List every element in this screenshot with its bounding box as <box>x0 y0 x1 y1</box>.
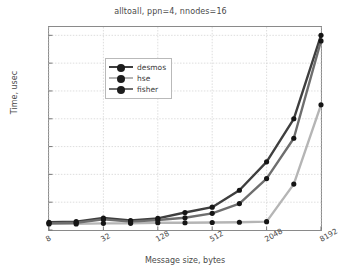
chart-figure: alltoall, ppn=4, nnodes=16 desmos hse fi… <box>0 0 341 277</box>
chart-title: alltoall, ppn=4, nnodes=16 <box>0 7 341 16</box>
legend-marker-desmos <box>109 63 133 72</box>
x-tick-label: 128 <box>154 229 171 244</box>
x-tick-label: 32 <box>99 231 112 244</box>
legend-label-fisher: fisher <box>137 85 158 94</box>
legend-label-hse: hse <box>137 74 150 83</box>
legend-item-desmos[interactable]: desmos <box>109 62 166 73</box>
legend-marker-fisher <box>109 85 133 94</box>
series-lines <box>49 27 321 230</box>
plot-area: desmos hse fisher <box>48 26 322 231</box>
legend-label-desmos: desmos <box>137 63 166 72</box>
x-axis-label: Message size, bytes <box>48 256 322 265</box>
legend-item-fisher[interactable]: fisher <box>109 84 166 95</box>
x-tick-label: 8 <box>44 234 53 244</box>
y-axis-label: Time, usec <box>10 48 19 138</box>
legend-marker-hse <box>109 74 133 83</box>
x-tick-label: 512 <box>208 229 225 244</box>
legend-item-hse[interactable]: hse <box>109 73 166 84</box>
chart-legend[interactable]: desmos hse fisher <box>105 58 172 99</box>
